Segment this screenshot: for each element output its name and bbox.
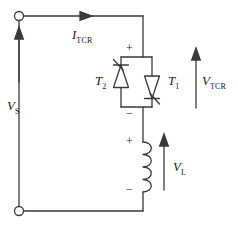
arrow-voltage-inductor xyxy=(160,134,169,190)
polarity-inductor-minus: − xyxy=(126,183,133,195)
polarity-inductor-plus: + xyxy=(126,135,133,147)
label-tcr-voltage: VTCR xyxy=(202,74,226,91)
tcr-circuit-diagram xyxy=(0,0,238,229)
terminal-top xyxy=(15,12,24,21)
label-tcr-current: ITCR xyxy=(72,28,92,45)
label-inductor-voltage: VL xyxy=(173,160,186,177)
arrow-voltage-tcr xyxy=(192,48,201,108)
label-thyristor-t1: T1 xyxy=(168,74,179,91)
polarity-tcr-minus: − xyxy=(126,107,133,119)
label-source-voltage: VS xyxy=(7,99,20,116)
arrow-voltage-source xyxy=(15,27,24,82)
inductor-coils xyxy=(143,142,151,192)
polarity-tcr-plus: + xyxy=(126,42,133,54)
terminal-bottom xyxy=(15,207,24,216)
label-thyristor-t2: T2 xyxy=(95,74,106,91)
